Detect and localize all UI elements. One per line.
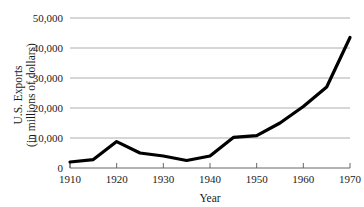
x-tick-mark-group (70, 163, 350, 168)
y-axis-title-line1: U.S. Exports (12, 65, 25, 125)
exports-line-chart: 010,00020,00030,00040,00050,000 19101920… (0, 0, 364, 207)
y-tick-label: 20,000 (33, 102, 64, 114)
y-tick-label: 10,000 (33, 132, 64, 144)
y-tick-label: 40,000 (33, 42, 64, 54)
gridline-group (70, 18, 350, 138)
x-tick-label: 1930 (152, 173, 175, 185)
x-tick-label: 1940 (199, 173, 222, 185)
y-tick-label: 30,000 (33, 72, 64, 84)
y-axis-title-line2: (in millions of dollars) (25, 43, 38, 147)
y-tick-label-group: 010,00020,00030,00040,00050,000 (33, 12, 64, 174)
x-axis-title: Year (199, 192, 220, 204)
exports-data-line (70, 38, 350, 163)
x-tick-label: 1960 (292, 173, 315, 185)
x-tick-label: 1920 (106, 173, 129, 185)
x-tick-label-group: 1910192019301940195019601970 (59, 173, 362, 185)
x-tick-label: 1950 (246, 173, 269, 185)
chart-container: 010,00020,00030,00040,00050,000 19101920… (0, 0, 364, 207)
y-tick-label: 50,000 (33, 12, 64, 24)
x-tick-label: 1970 (339, 173, 362, 185)
x-tick-label: 1910 (59, 173, 82, 185)
